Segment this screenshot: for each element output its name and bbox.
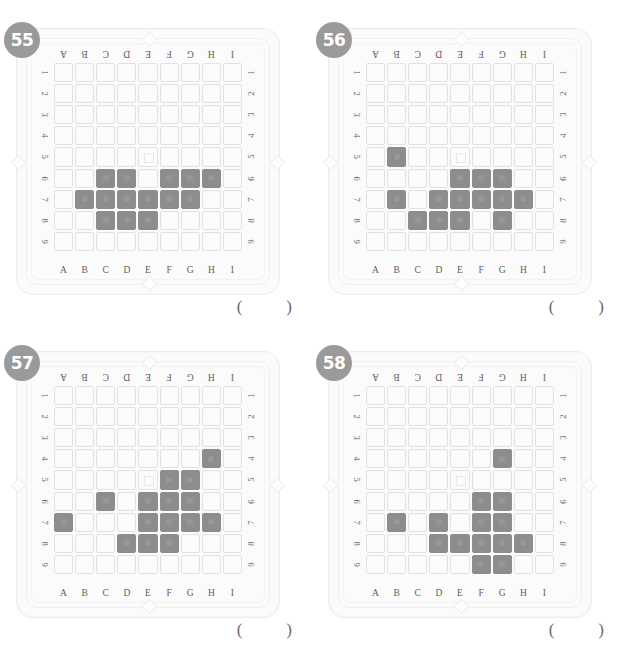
well-B9[interactable] [75,555,94,574]
well-I1[interactable] [535,63,554,82]
well-A9[interactable] [54,232,73,251]
well-D8[interactable] [117,534,136,553]
well-H8[interactable] [202,211,221,230]
well-C3[interactable] [96,428,115,447]
well-F8[interactable] [160,211,179,230]
well-G8[interactable] [181,211,200,230]
well-B4[interactable] [387,449,406,468]
well-B6[interactable] [75,169,94,188]
well-A6[interactable] [54,169,73,188]
well-B1[interactable] [387,63,406,82]
well-C4[interactable] [96,449,115,468]
well-D5[interactable] [429,470,448,489]
well-H3[interactable] [202,428,221,447]
well-H9[interactable] [202,555,221,574]
well-F9[interactable] [160,232,179,251]
well-D1[interactable] [429,386,448,405]
well-C3[interactable] [408,105,427,124]
well-D7[interactable] [429,190,448,209]
well-H9[interactable] [514,232,533,251]
well-E4[interactable] [138,449,157,468]
well-E4[interactable] [138,126,157,145]
well-C8[interactable] [96,534,115,553]
well-E6[interactable] [450,169,469,188]
well-G5[interactable] [181,470,200,489]
well-B6[interactable] [387,492,406,511]
answer-blank[interactable]: () [549,297,606,317]
well-E7[interactable] [138,190,157,209]
well-B5[interactable] [387,147,406,166]
well-H5[interactable] [202,470,221,489]
well-H3[interactable] [514,105,533,124]
well-E9[interactable] [138,232,157,251]
well-I7[interactable] [535,190,554,209]
well-G9[interactable] [493,232,512,251]
well-A2[interactable] [54,84,73,103]
well-F3[interactable] [160,428,179,447]
well-I8[interactable] [223,534,242,553]
well-E7[interactable] [450,190,469,209]
well-I3[interactable] [535,428,554,447]
well-G1[interactable] [181,63,200,82]
well-G1[interactable] [181,386,200,405]
well-B3[interactable] [75,105,94,124]
well-G4[interactable] [493,126,512,145]
well-G2[interactable] [493,407,512,426]
well-A7[interactable] [366,513,385,532]
well-G1[interactable] [493,386,512,405]
well-F3[interactable] [472,105,491,124]
well-E1[interactable] [450,63,469,82]
well-E9[interactable] [450,555,469,574]
well-C6[interactable] [408,169,427,188]
well-A8[interactable] [366,534,385,553]
well-C6[interactable] [96,492,115,511]
well-F4[interactable] [160,126,179,145]
well-A9[interactable] [54,555,73,574]
well-G7[interactable] [181,513,200,532]
well-I6[interactable] [535,169,554,188]
well-B7[interactable] [387,513,406,532]
well-H9[interactable] [514,555,533,574]
well-I3[interactable] [535,105,554,124]
well-I9[interactable] [223,232,242,251]
well-H2[interactable] [514,84,533,103]
well-C5[interactable] [96,470,115,489]
well-C1[interactable] [408,63,427,82]
well-E3[interactable] [450,105,469,124]
well-B9[interactable] [387,555,406,574]
well-D3[interactable] [117,105,136,124]
well-D5[interactable] [429,147,448,166]
well-I8[interactable] [535,534,554,553]
well-A7[interactable] [54,513,73,532]
well-A2[interactable] [366,407,385,426]
well-F2[interactable] [160,84,179,103]
well-I7[interactable] [223,190,242,209]
well-F8[interactable] [160,534,179,553]
well-C9[interactable] [408,232,427,251]
well-H9[interactable] [202,232,221,251]
well-I6[interactable] [223,169,242,188]
well-A3[interactable] [54,428,73,447]
well-F2[interactable] [472,84,491,103]
well-F1[interactable] [472,63,491,82]
well-B9[interactable] [387,232,406,251]
well-B2[interactable] [75,407,94,426]
well-F9[interactable] [472,232,491,251]
well-H8[interactable] [514,211,533,230]
well-I5[interactable] [223,470,242,489]
well-F6[interactable] [160,492,179,511]
well-A1[interactable] [366,63,385,82]
well-E3[interactable] [138,428,157,447]
well-D3[interactable] [429,105,448,124]
well-B6[interactable] [387,169,406,188]
well-C9[interactable] [96,555,115,574]
well-E7[interactable] [450,513,469,532]
well-D4[interactable] [117,126,136,145]
well-D4[interactable] [429,126,448,145]
well-C5[interactable] [408,147,427,166]
well-G7[interactable] [493,190,512,209]
well-I1[interactable] [535,386,554,405]
well-D2[interactable] [117,407,136,426]
well-E2[interactable] [138,407,157,426]
well-B5[interactable] [75,147,94,166]
